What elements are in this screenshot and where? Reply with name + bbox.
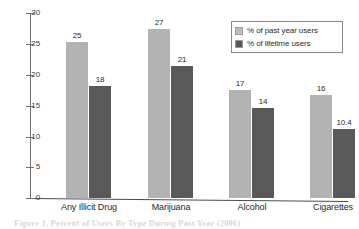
y-tick-label-30: 30 xyxy=(22,9,40,17)
legend-swatch-past-year-icon xyxy=(235,27,243,35)
bar-label-lifetime-3: 10.4 xyxy=(329,119,359,127)
y-tick-label-15: 15 xyxy=(22,102,40,110)
bar-group-marijuana: 27 21 Marijuana xyxy=(148,12,193,198)
legend-swatch-lifetime-icon xyxy=(235,40,243,48)
x-category-label-3: Cigarettes xyxy=(273,202,359,212)
bar-past-year-0[interactable] xyxy=(66,42,88,198)
bar-label-past-year-2: 17 xyxy=(225,80,255,88)
bar-lifetime-0[interactable] xyxy=(89,86,111,198)
y-tick-label-10: 10 xyxy=(22,133,40,141)
bar-lifetime-2[interactable] xyxy=(252,108,274,198)
legend-item-lifetime[interactable]: % of lifetime users xyxy=(235,38,338,49)
bar-label-past-year-0: 25 xyxy=(62,32,92,40)
bar-past-year-3[interactable] xyxy=(310,95,332,198)
bar-label-lifetime-2: 14 xyxy=(248,98,278,106)
bar-label-past-year-3: 16 xyxy=(306,85,336,93)
bar-lifetime-1[interactable] xyxy=(171,66,193,198)
legend-item-past-year[interactable]: % of past year users xyxy=(235,25,338,36)
y-tick-label-0: 0 xyxy=(22,194,40,202)
y-tick-label-25: 25 xyxy=(22,40,40,48)
bar-label-lifetime-1: 21 xyxy=(167,56,197,64)
bar-lifetime-3[interactable] xyxy=(333,129,355,198)
chart-legend: % of past year users % of lifetime users xyxy=(231,21,343,53)
y-tick-label-20: 20 xyxy=(22,71,40,79)
y-tick-label-5: 5 xyxy=(22,163,40,171)
legend-label-past-year: % of past year users xyxy=(247,26,318,35)
bar-past-year-2[interactable] xyxy=(229,90,251,198)
legend-label-lifetime: % of lifetime users xyxy=(247,39,310,48)
bar-group-any-illicit-drug: 25 18 Any Illicit Drug xyxy=(66,12,111,198)
bar-past-year-1[interactable] xyxy=(148,29,170,198)
bar-label-past-year-1: 27 xyxy=(144,19,174,27)
figure-caption: Figure 1. Percent of Users By Type Durin… xyxy=(14,219,241,228)
bar-label-lifetime-0: 18 xyxy=(85,76,115,84)
